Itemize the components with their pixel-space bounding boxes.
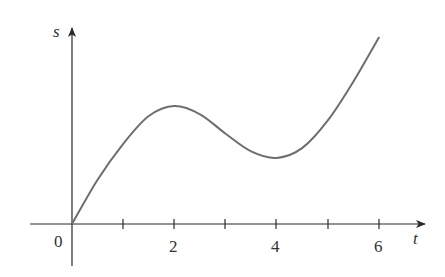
tick-label-4: 4 bbox=[271, 237, 280, 256]
tick-label-6: 6 bbox=[374, 237, 383, 256]
position-time-graph: s t 0 2 4 6 bbox=[0, 0, 445, 277]
tick-label-2: 2 bbox=[169, 237, 178, 256]
s-axis-label: s bbox=[53, 22, 60, 41]
s-of-t-curve bbox=[72, 37, 379, 224]
origin-label: 0 bbox=[54, 232, 63, 251]
t-axis-label: t bbox=[413, 229, 419, 248]
